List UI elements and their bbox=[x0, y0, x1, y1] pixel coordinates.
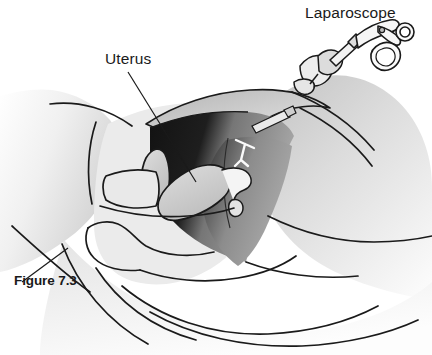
laparoscope-oval-grip-inner bbox=[376, 48, 395, 66]
figure-caption: Figure 7.3 bbox=[14, 274, 77, 288]
label-laparoscope: Laparoscope bbox=[305, 5, 396, 21]
figure-illustration: Laparoscope Uterus Figure 7.3 bbox=[0, 0, 432, 355]
ovary-organ bbox=[229, 199, 243, 216]
label-uterus: Uterus bbox=[105, 51, 151, 67]
laparoscope-ring-loop-inner bbox=[400, 27, 410, 37]
laparoscopy-diagram-svg bbox=[0, 0, 432, 355]
laparoscope-pivot-screw bbox=[379, 27, 384, 32]
pubic-bone-outline bbox=[103, 170, 159, 208]
